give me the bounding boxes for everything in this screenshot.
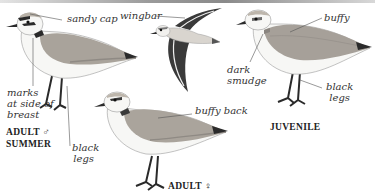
label-line: legs xyxy=(72,153,94,164)
label-line: smudge xyxy=(227,75,267,86)
caption-adult-female: ADULT ♀ xyxy=(168,180,212,192)
label-line: legs xyxy=(326,92,350,103)
bird-illustrations xyxy=(0,0,375,195)
label-buffy: buffy xyxy=(324,12,350,23)
label-line: dark xyxy=(227,64,267,75)
field-guide-plate: sandy cap marks at side of breast ADULT … xyxy=(0,0,375,195)
label-buffy-back: buffy back xyxy=(195,105,248,116)
label-line: black xyxy=(326,81,350,92)
label-line: marks xyxy=(7,87,54,98)
label-dark-smudge: dark smudge xyxy=(227,64,267,86)
caption-line: SUMMER xyxy=(6,138,51,150)
label-black-legs-male: black legs xyxy=(72,142,94,164)
label-breast-marks: marks at side of breast xyxy=(7,87,54,120)
label-wingbar: wingbar xyxy=(120,10,162,21)
caption-juvenile: JUVENILE xyxy=(270,121,320,133)
label-line: breast xyxy=(7,109,54,120)
label-sandy-cap: sandy cap xyxy=(67,13,118,24)
label-line: at side of xyxy=(7,98,54,109)
label-line: black xyxy=(72,142,94,153)
label-black-legs-juvenile: black legs xyxy=(326,81,350,103)
caption-line: ADULT ♂ xyxy=(6,126,51,138)
caption-adult-male-summer: ADULT ♂ SUMMER xyxy=(6,126,51,150)
